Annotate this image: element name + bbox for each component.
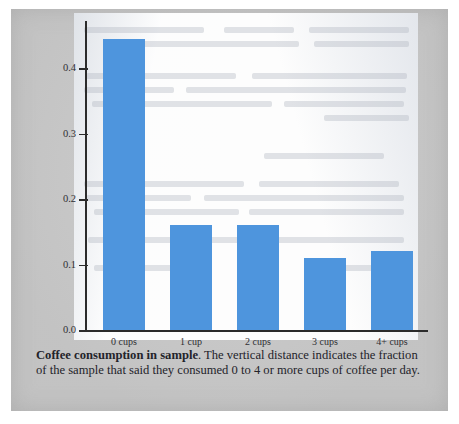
x-axis-line bbox=[85, 330, 428, 332]
y-tick-mark-0 bbox=[79, 330, 88, 332]
y-tick-label-2: 0.2 bbox=[48, 193, 76, 204]
x-tick-label-2: 2 cups bbox=[224, 336, 292, 347]
y-tick-mark-3 bbox=[79, 134, 88, 136]
figure-caption: Coffee consumption in sample. The vertic… bbox=[36, 348, 426, 377]
bar-2[interactable] bbox=[237, 225, 279, 330]
x-tick-label-1: 1 cup bbox=[157, 336, 225, 347]
x-tick-label-0: 0 cups bbox=[90, 336, 158, 347]
y-tick-mark-1 bbox=[79, 265, 88, 267]
y-tick-label-4: 0.4 bbox=[48, 62, 76, 73]
bar-3[interactable] bbox=[304, 258, 346, 330]
bar-0[interactable] bbox=[103, 39, 145, 330]
y-tick-label-3: 0.3 bbox=[48, 128, 76, 139]
bar-1[interactable] bbox=[170, 225, 212, 330]
y-tick-label-0: 0.0 bbox=[48, 324, 76, 335]
y-tick-mark-2 bbox=[79, 199, 88, 201]
x-tick-label-4: 4+ cups bbox=[358, 336, 426, 347]
x-tick-label-3: 3 cups bbox=[291, 336, 359, 347]
bar-4[interactable] bbox=[371, 251, 413, 330]
y-tick-mark-4 bbox=[79, 68, 88, 70]
y-tick-label-1: 0.1 bbox=[48, 259, 76, 270]
caption-bold-lead: Coffee consumption in sample bbox=[36, 348, 198, 362]
